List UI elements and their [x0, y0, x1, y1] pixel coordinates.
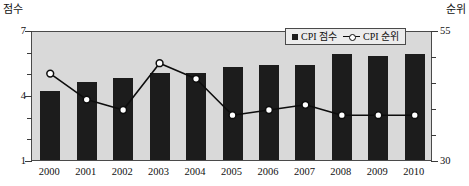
- x-axis-tick-label: 2005: [213, 166, 249, 177]
- legend-label-cpi-score: CPI 점수: [301, 32, 337, 42]
- x-axis-tick-label: 2009: [359, 166, 395, 177]
- x-axis-tick-label: 2002: [104, 166, 140, 177]
- legend-item-cpi-score: CPI 점수: [292, 32, 337, 42]
- cpi-score-rank-chart: 점수 순위 147 3055 2000200120022003200420052…: [0, 0, 469, 186]
- line-marker-swatch-icon: [343, 33, 360, 41]
- bar-swatch-icon: [292, 34, 298, 40]
- chart-legend: CPI 점수 CPI 순위: [285, 28, 406, 45]
- x-axis-tick-label: 2010: [396, 166, 432, 177]
- x-axis-tick-label: 2001: [67, 166, 103, 177]
- x-axis-tick-label: 2006: [250, 166, 286, 177]
- x-axis-tick-label: 2007: [286, 166, 322, 177]
- legend-label-cpi-rank: CPI 순위: [363, 32, 399, 42]
- legend-item-cpi-rank: CPI 순위: [343, 32, 399, 42]
- x-axis-tick-label: 2003: [140, 166, 176, 177]
- x-axis-tick-label: 2004: [177, 166, 213, 177]
- x-axis-tick-label: 2008: [323, 166, 359, 177]
- x-axis-tick-label: 2000: [31, 166, 67, 177]
